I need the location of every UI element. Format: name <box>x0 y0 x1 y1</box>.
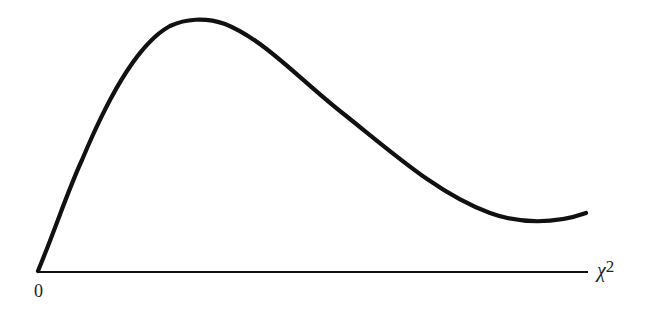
density-curve <box>38 20 586 271</box>
chi-square-chart: 0 χ2 <box>0 0 651 315</box>
superscript-2: 2 <box>606 257 615 276</box>
x-axis-label: χ2 <box>595 257 614 282</box>
origin-label: 0 <box>34 281 43 301</box>
